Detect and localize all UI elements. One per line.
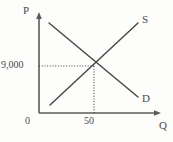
demand-curve <box>49 23 138 97</box>
supply-demand-figure: P Q S D 0 9,000 50 <box>0 0 173 142</box>
y-axis-tick-label: 9,000 <box>1 60 24 70</box>
supply-curve-label: S <box>142 14 148 25</box>
demand-curve-label: D <box>142 93 150 104</box>
x-axis <box>39 110 161 116</box>
x-axis-label: Q <box>159 120 167 131</box>
origin-label: 0 <box>25 116 30 126</box>
x-axis-tick-label: 50 <box>84 116 94 126</box>
y-axis-label: P <box>23 5 29 16</box>
y-axis <box>36 12 42 113</box>
